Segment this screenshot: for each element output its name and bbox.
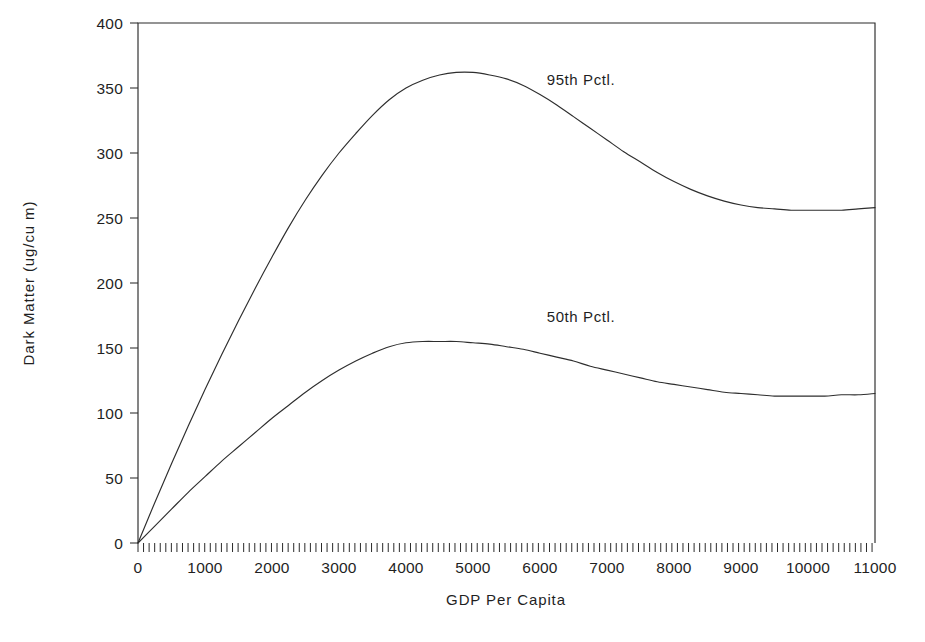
series-label-1: 95th Pctl. [547, 71, 616, 88]
x-tick-label: 5000 [455, 559, 490, 576]
x-tick-label: 11000 [854, 559, 897, 576]
y-tick-label: 150 [97, 340, 124, 357]
y-axis-title: Dark Matter (ug/cu m) [20, 201, 37, 366]
chart-background [0, 0, 925, 642]
y-tick-label: 50 [105, 470, 123, 487]
x-axis-title: GDP Per Capita [446, 591, 566, 608]
y-tick-label: 300 [97, 145, 124, 162]
x-tick-label: 2000 [254, 559, 289, 576]
series-label-2: 50th Pctl. [547, 308, 616, 325]
x-tick-label: 0 [134, 559, 143, 576]
y-tick-label: 400 [97, 15, 124, 32]
x-tick-label: 6000 [522, 559, 557, 576]
y-tick-label: 250 [97, 210, 124, 227]
x-tick-label: 8000 [656, 559, 691, 576]
y-tick-label: 100 [97, 405, 124, 422]
x-tick-label: 3000 [321, 559, 356, 576]
x-tick-label: 4000 [388, 559, 423, 576]
x-tick-label: 1000 [187, 559, 222, 576]
chart-container: 050100150200250300350400 010002000300040… [0, 0, 925, 642]
dark-matter-gdp-line-chart: 050100150200250300350400 010002000300040… [0, 0, 925, 642]
y-tick-label: 350 [97, 80, 124, 97]
x-tick-label: 10000 [786, 559, 830, 576]
y-tick-label: 200 [97, 275, 124, 292]
y-tick-label: 0 [114, 535, 123, 552]
x-tick-label: 7000 [589, 559, 624, 576]
x-tick-label: 9000 [723, 559, 758, 576]
